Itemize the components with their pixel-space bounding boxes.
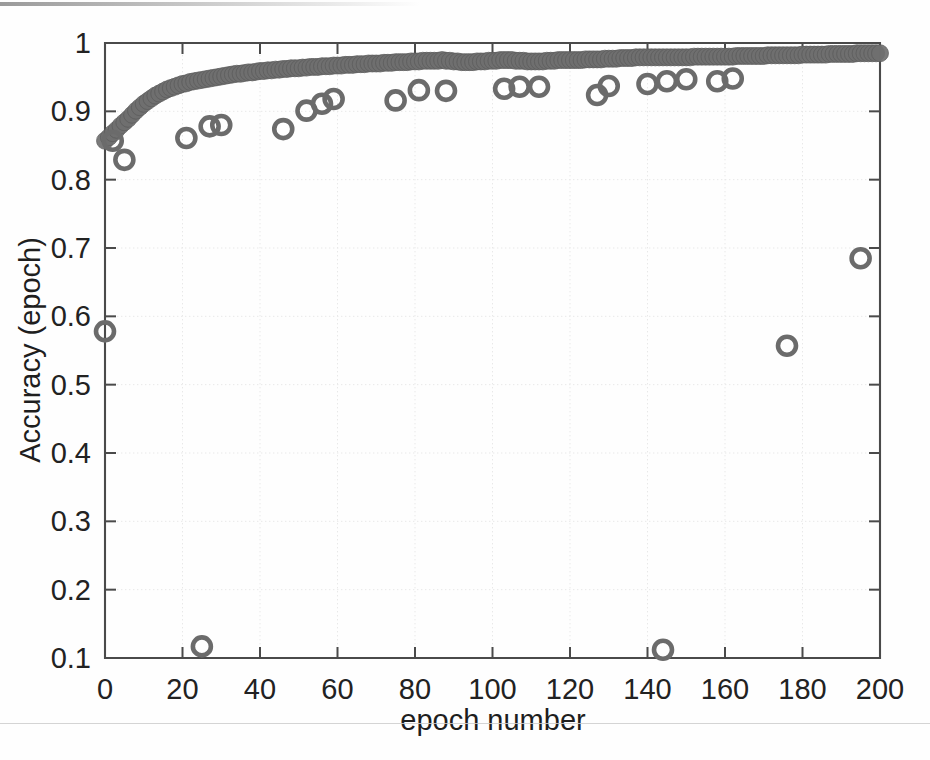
x-axis-label: epoch number bbox=[400, 704, 586, 736]
x-tick-label: 60 bbox=[321, 673, 353, 705]
validation-data-point bbox=[437, 82, 455, 100]
validation-data-point bbox=[274, 120, 292, 138]
x-tick-label: 140 bbox=[623, 673, 671, 705]
validation-data-point bbox=[852, 249, 870, 267]
y-tick-label: 0.1 bbox=[51, 642, 91, 674]
x-tick-label: 160 bbox=[701, 673, 749, 705]
accuracy-scatter-plot: 020406080100120140160180200 0.10.20.30.4… bbox=[0, 0, 930, 760]
validation-data-point bbox=[177, 129, 195, 147]
x-tick-label: 200 bbox=[856, 673, 904, 705]
y-tick-label: 0.9 bbox=[51, 95, 91, 127]
y-tick-label: 0.5 bbox=[51, 369, 91, 401]
x-tick-labels: 020406080100120140160180200 bbox=[97, 673, 904, 705]
x-tick-label: 80 bbox=[399, 673, 431, 705]
y-tick-label: 0.8 bbox=[51, 164, 91, 196]
scan-artifact-top bbox=[0, 2, 420, 6]
y-tick-label: 0.4 bbox=[51, 437, 91, 469]
training-data-point bbox=[872, 45, 889, 62]
x-tick-label: 40 bbox=[244, 673, 276, 705]
x-tick-label: 100 bbox=[468, 673, 516, 705]
figure-canvas: 020406080100120140160180200 0.10.20.30.4… bbox=[0, 0, 930, 760]
validation-data-point bbox=[193, 637, 211, 655]
y-axis-label: Accuracy (epoch) bbox=[14, 237, 46, 463]
y-tick-labels: 0.10.20.30.40.50.60.70.80.91 bbox=[51, 27, 91, 674]
x-tick-label: 180 bbox=[778, 673, 826, 705]
validation-data-point bbox=[387, 91, 405, 109]
validation-data-point bbox=[778, 337, 796, 355]
y-tick-label: 0.7 bbox=[51, 232, 91, 264]
x-tick-label: 120 bbox=[546, 673, 594, 705]
scan-artifact-bottom bbox=[0, 723, 930, 724]
validation-data-point bbox=[658, 72, 676, 90]
validation-data-point bbox=[530, 78, 548, 96]
x-tick-label: 20 bbox=[166, 673, 198, 705]
y-tick-label: 0.2 bbox=[51, 574, 91, 606]
validation-data-point bbox=[212, 116, 230, 134]
y-tick-label: 0.6 bbox=[51, 300, 91, 332]
y-tick-label: 0.3 bbox=[51, 505, 91, 537]
validation-data-point bbox=[115, 151, 133, 169]
x-tick-label: 0 bbox=[97, 673, 113, 705]
validation-data-point bbox=[654, 641, 672, 659]
y-tick-label: 1 bbox=[75, 27, 91, 59]
validation-data-point bbox=[677, 70, 695, 88]
validation-data-point bbox=[410, 81, 428, 99]
validation-accuracy-series bbox=[96, 70, 870, 659]
